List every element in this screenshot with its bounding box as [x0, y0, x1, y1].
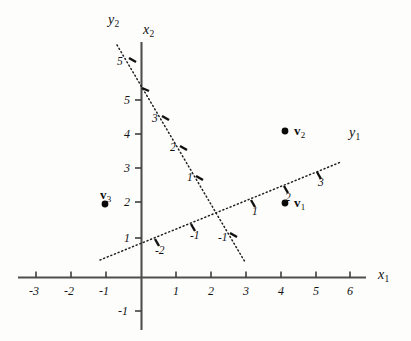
y1-axis-label: y1	[349, 126, 360, 142]
x1-tick-label-5: 5	[313, 285, 319, 297]
y1-axis-label-sub: 1	[355, 132, 360, 142]
y2-tick-label-neg1: -1	[218, 232, 228, 244]
x2-axis-label: x2	[143, 23, 154, 39]
y1-tick-label-1: 1	[252, 206, 258, 218]
point-label-v2-base: v	[294, 123, 301, 138]
y2-axis-line	[117, 45, 245, 262]
x1-tick-label-1: 1	[173, 285, 179, 297]
point-label-v2-sub: 2	[301, 130, 306, 140]
x2-tick-label-1: 1	[124, 232, 130, 244]
y2-tick-label-1: 1	[187, 172, 193, 184]
y2-tick-label-3: 3	[152, 113, 158, 125]
y1-tick-label-2: 2	[285, 192, 291, 204]
x1-tick-label-3: 3	[243, 285, 249, 297]
point-label-v1: v1	[294, 196, 305, 212]
y2-tick-marks	[129, 58, 237, 237]
point-label-v3-base: v	[100, 187, 107, 202]
y2-tick-label-5: 5	[117, 56, 123, 68]
x1-axis-label-sub: 1	[384, 274, 389, 284]
y1-tick-label-neg1: -1	[190, 230, 200, 242]
x1-tick-label-2: 2	[208, 285, 214, 297]
x1-tick-label-neg3: -3	[29, 285, 39, 297]
x1-tick-label-neg1: -1	[99, 285, 109, 297]
point-label-v3-sub: 3	[107, 194, 112, 204]
x1-tick-label-4: 4	[278, 285, 284, 297]
x2-tick-label-5: 5	[124, 94, 130, 106]
x1-tick-label-6: 6	[347, 285, 353, 297]
point-label-v3: v3	[100, 188, 111, 204]
x2-tick-label-2: 2	[124, 196, 130, 208]
x1-tick-label-neg2: -2	[64, 285, 74, 297]
x2-axis-label-sub: 2	[149, 29, 154, 39]
point-label-v2: v2	[294, 124, 305, 140]
point-marker-v2	[282, 128, 289, 135]
x2-tick-label-3: 3	[124, 162, 130, 174]
coordinate-plot-figure: -3 -2 -1 1 2 3 4 5 6 5 4 3 2 1 -1 -2 -1 …	[0, 0, 411, 341]
point-label-v1-base: v	[294, 195, 301, 210]
y1-tick-label-neg2: -2	[155, 245, 165, 257]
x2-tick-label-4: 4	[124, 128, 130, 140]
x1-axis-label: x1	[378, 268, 389, 284]
y1-tick-label-3: 3	[318, 177, 324, 189]
x2-tick-label-neg1: -1	[118, 305, 128, 317]
y2-tick-label-2: 2	[170, 142, 176, 154]
point-label-v1-sub: 1	[301, 202, 306, 212]
y2-axis-label: y2	[108, 13, 119, 29]
y2-axis-label-sub: 2	[114, 19, 119, 29]
